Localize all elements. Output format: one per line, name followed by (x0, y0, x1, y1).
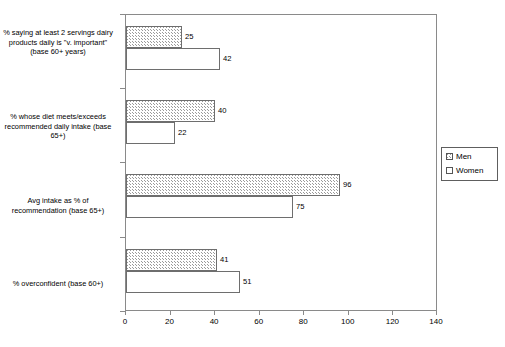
x-axis-label-0: 0 (110, 317, 140, 327)
y-axis-tick (120, 88, 125, 89)
bar-value-women-3: 51 (243, 277, 251, 286)
bar-value-men-1: 40 (218, 106, 226, 115)
legend-swatch-women-icon (446, 167, 453, 174)
bar-value-women-2: 75 (296, 202, 304, 211)
y-axis-tick (120, 162, 125, 163)
bars-layer: 25 42 40 22 96 75 41 51 (126, 15, 436, 310)
category-label-2: Avg intake as % of recommendation (base … (0, 196, 116, 215)
legend-item-women[interactable]: Women (446, 165, 493, 176)
y-axis-tick (120, 14, 125, 15)
bar-value-women-1: 22 (178, 128, 186, 137)
bar-men-1[interactable] (126, 100, 215, 122)
category-label-1: % whose diet meets/exceeds recommended d… (0, 112, 116, 141)
x-axis: 0 20 40 60 80 100 120 140 (125, 311, 437, 335)
x-axis-tick (303, 311, 304, 315)
legend-item-men[interactable]: Men (446, 151, 493, 162)
x-axis-label-60: 60 (244, 317, 274, 327)
legend-swatch-men-icon (446, 153, 453, 160)
bar-value-women-0: 42 (223, 54, 231, 63)
bar-women-3[interactable] (126, 271, 240, 293)
x-axis-tick (125, 311, 126, 315)
category-axis-labels: % saying at least 2 servings dairy produ… (0, 14, 120, 311)
x-axis-label-100: 100 (333, 317, 363, 327)
x-axis-tick (348, 311, 349, 315)
bar-women-1[interactable] (126, 122, 175, 144)
bar-men-2[interactable] (126, 174, 340, 196)
bar-women-2[interactable] (126, 196, 293, 218)
x-axis-label-140: 140 (421, 317, 451, 327)
bar-value-men-3: 41 (220, 255, 228, 264)
bar-value-men-2: 96 (343, 180, 351, 189)
category-label-3: % overconfident (base 60+) (0, 279, 116, 289)
x-axis-tick (392, 311, 393, 315)
x-axis-label-120: 120 (377, 317, 407, 327)
x-axis-tick (170, 311, 171, 315)
legend-label-men: Men (456, 151, 472, 162)
x-axis-tick (259, 311, 260, 315)
category-label-0: % saying at least 2 servings dairy produ… (0, 28, 116, 57)
bar-chart: % saying at least 2 servings dairy produ… (0, 0, 505, 347)
bar-men-3[interactable] (126, 249, 217, 271)
bar-men-0[interactable] (126, 26, 182, 48)
bar-women-0[interactable] (126, 48, 220, 70)
bar-value-men-0: 25 (185, 32, 193, 41)
x-axis-label-80: 80 (288, 317, 318, 327)
x-axis-label-40: 40 (199, 317, 229, 327)
x-axis-tick (214, 311, 215, 315)
y-axis-tick (120, 237, 125, 238)
x-axis-label-20: 20 (155, 317, 185, 327)
legend: Men Women (441, 147, 498, 181)
legend-label-women: Women (456, 165, 483, 176)
x-axis-tick (436, 311, 437, 315)
